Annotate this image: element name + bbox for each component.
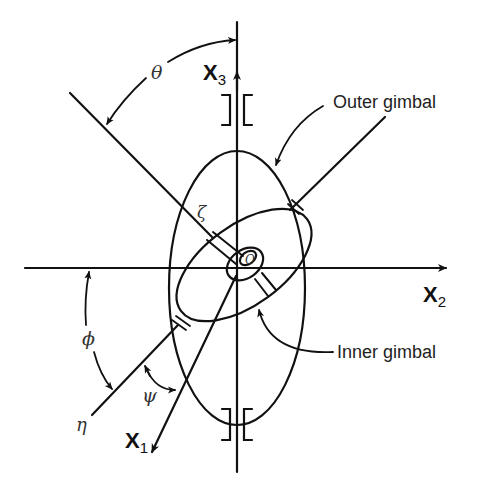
top-bearing-right [244, 95, 252, 125]
phi-arc-top [85, 272, 89, 325]
eta-label: η [76, 414, 87, 435]
x3-label: X3 [203, 60, 226, 88]
x1-axis [152, 276, 236, 452]
phi-arc-bottom [94, 352, 112, 389]
rotor-shaft-upper [207, 240, 236, 264]
psi-label: ψ [142, 384, 158, 406]
inner-gimbal-leader [259, 310, 333, 352]
zeta-axis [70, 93, 212, 237]
rotor-shaft-lower [255, 279, 268, 296]
eta-axis-upper [290, 117, 385, 210]
eta-axis [92, 325, 178, 415]
inner-gimbal-label: Inner gimbal [337, 342, 436, 362]
x1-label: X1 [125, 428, 148, 456]
zeta-label: ζ [197, 202, 208, 222]
theta-arc-left [107, 78, 146, 124]
phi-label: ϕ [82, 327, 95, 349]
outer-gimbal-label: Outer gimbal [333, 92, 436, 112]
x2-label: X2 [423, 282, 446, 310]
rotor-shaft-lower-b [262, 273, 276, 290]
theta-arc-right [168, 40, 235, 62]
top-bearing-left [222, 95, 230, 125]
gimbal-diagram: X3 X2 X1 θ ϕ ψ ζ η O Outer gimbal Inner … [0, 0, 477, 490]
outer-gimbal-leader [276, 106, 323, 165]
psi-arc-start [145, 366, 150, 376]
center-label: O [245, 253, 255, 267]
theta-label: θ [151, 61, 163, 83]
